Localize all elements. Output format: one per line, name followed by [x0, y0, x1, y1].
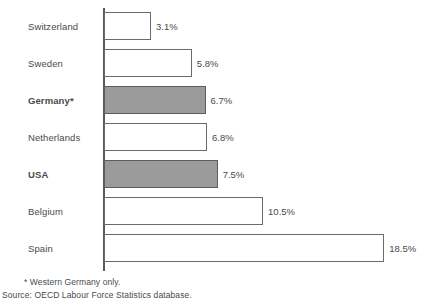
bar-row: Germany* 6.7% — [0, 82, 435, 118]
plot-area: Switzerland 3.1% Sweden 5.8% Germany* 6.… — [0, 0, 435, 275]
category-label: Belgium — [0, 193, 92, 229]
bar-row: Sweden 5.8% — [0, 45, 435, 81]
category-label: Netherlands — [0, 119, 92, 155]
footnote-note: * Western Germany only. — [0, 276, 435, 289]
value-label: 6.8% — [207, 119, 234, 155]
value-label: 10.5% — [263, 193, 295, 229]
value-label: 5.8% — [192, 45, 219, 81]
footnote-source: Source: OECD Labour Force Statistics dat… — [0, 289, 435, 302]
bar-row: Switzerland 3.1% — [0, 8, 435, 44]
bar-row: Spain 18.5% — [0, 230, 435, 266]
bar — [104, 49, 192, 77]
bar — [104, 234, 384, 262]
bar-chart: Switzerland 3.1% Sweden 5.8% Germany* 6.… — [0, 0, 435, 305]
category-label: Germany* — [0, 82, 92, 118]
value-label: 18.5% — [384, 230, 416, 266]
category-label: USA — [0, 156, 92, 192]
bar — [104, 197, 263, 225]
bar — [104, 160, 218, 188]
bar-row: Netherlands 6.8% — [0, 119, 435, 155]
bar — [104, 86, 206, 114]
value-label: 6.7% — [206, 82, 233, 118]
category-label: Switzerland — [0, 8, 92, 44]
bar-row: USA 7.5% — [0, 156, 435, 192]
category-label: Spain — [0, 230, 92, 266]
bar — [104, 123, 207, 151]
footnotes: * Western Germany only. Source: OECD Lab… — [0, 276, 435, 302]
value-label: 7.5% — [218, 156, 245, 192]
value-label: 3.1% — [151, 8, 178, 44]
bar — [104, 12, 151, 40]
category-label: Sweden — [0, 45, 92, 81]
bar-row: Belgium 10.5% — [0, 193, 435, 229]
